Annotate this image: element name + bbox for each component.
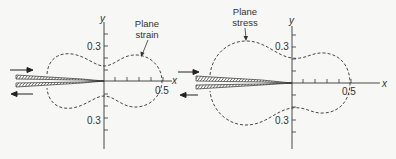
x-axis-label: x — [172, 76, 177, 86]
crack-upper-face — [196, 76, 292, 83]
plane-stress-caption: Plane stress — [226, 6, 264, 28]
crack-upper-face — [16, 75, 104, 81]
crack-lower-face — [16, 81, 104, 87]
caption-line1: Plane — [226, 6, 264, 17]
y-tick-bottom-label: 0.3 — [275, 116, 289, 126]
y-tick-top-label: 0.3 — [87, 42, 101, 52]
caption-line1: Plane — [130, 18, 164, 29]
y-tick-bottom-label: 0.3 — [87, 116, 101, 126]
x-axis-label: x — [382, 79, 387, 89]
y-tick-top-label: 0.3 — [275, 42, 289, 52]
plane-strain-caption: Plane strain — [130, 18, 164, 40]
y-axis-label: y — [289, 16, 294, 26]
x-tick-label: 0.5 — [342, 87, 356, 97]
diagram-canvas — [0, 0, 396, 159]
y-axis-label: y — [100, 14, 105, 24]
diagram-root: y 0.3 0.3 0.5 x Plane strain y 0.3 0.3 0… — [0, 0, 396, 159]
x-tick-label: 0.5 — [155, 86, 169, 96]
crack-lower-face — [196, 83, 292, 89]
caption-line2: strain — [130, 29, 164, 40]
caption-line2: stress — [226, 17, 264, 28]
